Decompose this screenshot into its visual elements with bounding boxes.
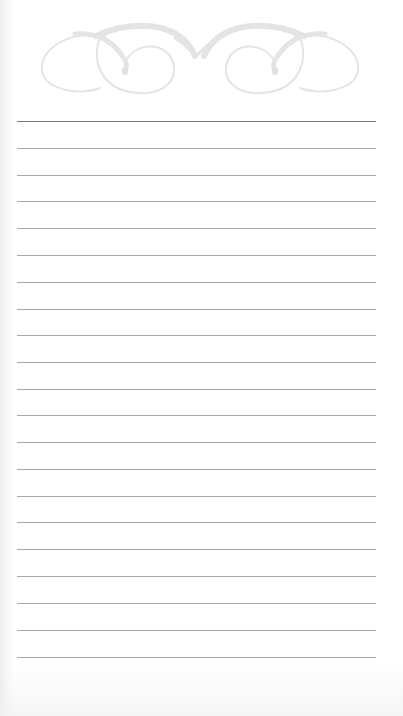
ruled-line: [17, 309, 376, 310]
ruled-line: [17, 630, 376, 631]
ruled-line: [17, 335, 376, 336]
ruled-line: [17, 442, 376, 443]
ruled-line: [17, 175, 376, 176]
ruled-line: [17, 148, 376, 149]
ruled-line: [17, 201, 376, 202]
ruled-line: [17, 549, 376, 550]
ruled-line: [17, 228, 376, 229]
ruled-lines: [0, 0, 403, 716]
ruled-line: [17, 282, 376, 283]
ruled-line: [17, 603, 376, 604]
ruled-line: [17, 522, 376, 523]
ruled-line: [17, 657, 376, 658]
notepad-page: [0, 0, 403, 716]
ruled-line: [17, 362, 376, 363]
ruled-line: [17, 389, 376, 390]
ruled-line: [17, 415, 376, 416]
ruled-line: [17, 469, 376, 470]
ruled-line: [17, 496, 376, 497]
ruled-line: [17, 576, 376, 577]
ruled-line: [17, 255, 376, 256]
ruled-line: [17, 121, 376, 122]
